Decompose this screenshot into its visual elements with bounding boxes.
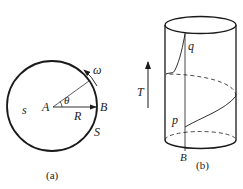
caption-b: (b) [196, 160, 209, 171]
figure-a-circle-diagram [7, 61, 97, 151]
label-angle-theta: θ [64, 95, 69, 106]
angle-arc [60, 102, 62, 108]
figure-b-cylinder-diagram [148, 17, 236, 152]
cylinder-top-ellipse [165, 17, 236, 34]
label-radius-r: R [74, 110, 81, 122]
cylinder-bottom-front [165, 140, 236, 149]
label-boundary-s: S [94, 126, 100, 138]
helix-front-lower [185, 96, 236, 127]
rotated-radius-line [53, 81, 89, 107]
circle-boundary [7, 61, 97, 151]
cylinder-bottom-back [165, 132, 236, 141]
label-point-q: q [188, 40, 194, 52]
label-center-a: A [42, 101, 49, 113]
label-omega: ω [93, 64, 101, 76]
helix-back-dashed [166, 74, 236, 96]
label-inside-s: s [22, 104, 27, 116]
label-point-p: p [172, 114, 178, 126]
label-time-t: T [137, 86, 144, 98]
label-base-b: B [180, 152, 187, 163]
helix-front-upper [166, 34, 185, 74]
label-point-b: B [100, 101, 107, 113]
caption-a: (a) [46, 170, 58, 181]
